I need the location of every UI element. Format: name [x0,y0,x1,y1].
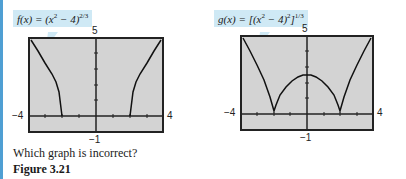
right-xmax-label: 4 [377,107,383,118]
left-graph [28,37,164,133]
right-function-label: g(x) = [(x2 − 4)2]1/3 [214,10,308,27]
label-exp: 1/3 [295,12,304,20]
label-text: − 4) [265,13,287,25]
left-xmax-label: 4 [167,110,173,121]
left-function-label: f(x) = (x2 − 4)2/3 [13,10,92,27]
label-text: f(x) = (x [17,13,54,25]
left-xmin-label: −4 [12,110,23,121]
right-xmin-label: −4 [224,107,235,118]
question-caption: Which graph is incorrect? [13,146,137,161]
left-ymax-label: 5 [92,25,98,36]
label-exp: 2/3 [79,12,88,20]
left-ymin-label: −1 [89,134,100,145]
right-ymax-label: 5 [302,23,308,34]
label-text: − 4) [57,13,79,25]
right-graph [240,35,374,131]
accent-bar [0,0,3,179]
right-ymin-label: −1 [300,132,311,143]
figure-label: Figure 3.21 [13,162,71,177]
label-text: g(x) = [(x [218,13,261,25]
